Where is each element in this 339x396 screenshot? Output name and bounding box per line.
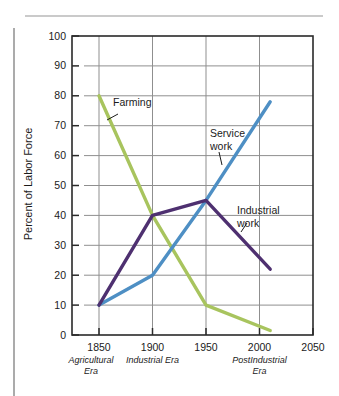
x-tick-label: 1950 xyxy=(194,341,218,353)
y-tick-label: 90 xyxy=(54,59,66,71)
era-label-era: Era xyxy=(84,366,98,376)
y-tick-label: 60 xyxy=(54,149,66,161)
x-tick-label: 2000 xyxy=(248,341,272,353)
labor-force-chart: 0102030405060708090100185019001950200020… xyxy=(0,0,339,396)
annotation-label-industrial-work: Industrial xyxy=(237,204,280,216)
x-tick-label: 2050 xyxy=(301,341,325,353)
y-tick-label: 70 xyxy=(54,119,66,131)
annotation-label-service-work: work xyxy=(209,140,233,152)
era-label-era: Era xyxy=(252,366,266,376)
y-tick-label: 40 xyxy=(54,209,66,221)
era-label-industrial-era: Industrial Era xyxy=(126,355,179,365)
y-tick-label: 30 xyxy=(54,239,66,251)
page: 0102030405060708090100185019001950200020… xyxy=(0,0,339,396)
y-tick-label: 10 xyxy=(54,299,66,311)
y-tick-label: 50 xyxy=(54,179,66,191)
annotation-label-farming: Farming xyxy=(113,96,152,108)
y-tick-label: 80 xyxy=(54,89,66,101)
x-tick-label: 1900 xyxy=(141,341,165,353)
y-tick-label: 0 xyxy=(60,329,66,341)
annotation-label-service-work: Service xyxy=(210,127,245,139)
y-axis-title: Percent of Labor Force xyxy=(22,128,34,241)
era-label-postindustrial: PostIndustrial xyxy=(232,355,288,365)
era-label-agricultural: Agricultural xyxy=(67,355,114,365)
annotation-label-industrial-work: work xyxy=(236,217,260,229)
x-tick-label: 1850 xyxy=(87,341,111,353)
y-tick-label: 20 xyxy=(54,269,66,281)
annotation-leader-service-work xyxy=(219,152,222,165)
y-tick-label: 100 xyxy=(48,30,66,42)
